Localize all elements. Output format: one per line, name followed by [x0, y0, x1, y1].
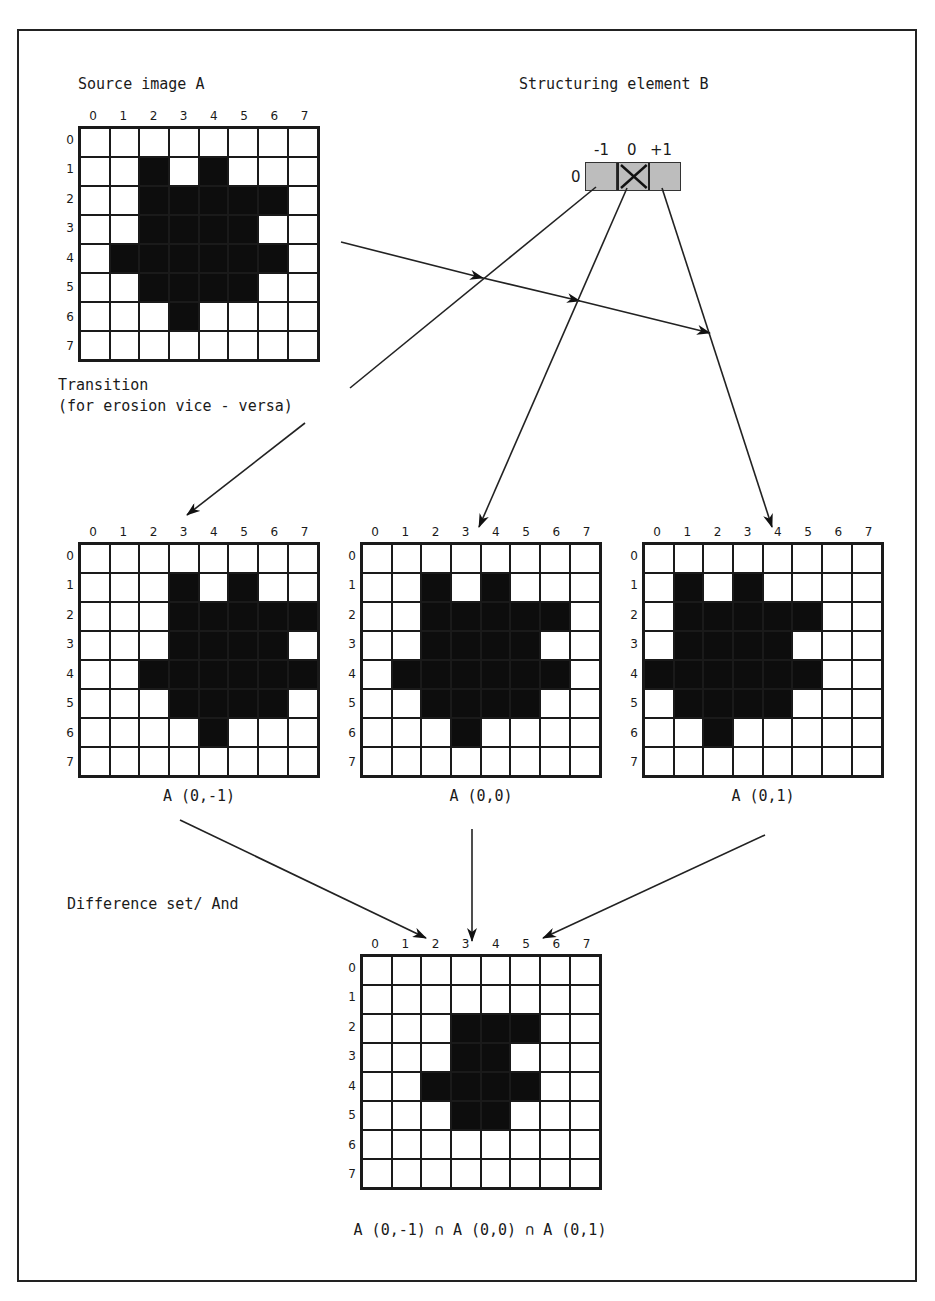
and-arrow-right: [543, 835, 765, 938]
shift-arrow-plus1: [662, 188, 772, 527]
shift-arrow-0: [479, 188, 627, 527]
shift-arrow-minus1: [187, 187, 596, 515]
arrows-layer: [0, 0, 935, 1301]
and-arrow-left: [180, 820, 426, 938]
translation-arrow: [341, 242, 710, 333]
